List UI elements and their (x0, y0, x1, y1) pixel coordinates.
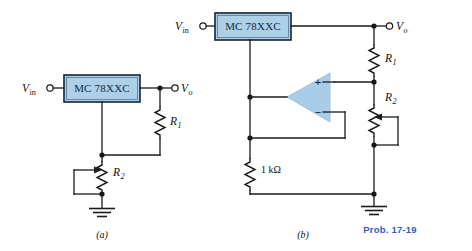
resistor-r1-b (369, 44, 379, 77)
output-terminal-a[interactable] (172, 85, 178, 91)
label-r1-b: R1 (384, 52, 397, 67)
label-r2-a: R2 (112, 166, 125, 181)
circuit-b: Vin MC 78XXC Vo R1 R2 (175, 13, 408, 241)
regulator-label-b: MC 78XXC (225, 20, 281, 32)
label-1k-b: 1 kΩ (261, 164, 281, 175)
opamp-minus-sign-b: − (315, 106, 321, 118)
label-vin-a: Vin (22, 82, 36, 97)
circuit-a: MC 78XXC Vin Vo R1 R2 (22, 75, 193, 241)
input-terminal-a[interactable] (47, 85, 53, 91)
label-vin-b: Vin (175, 20, 189, 35)
ground-symbol-a (89, 209, 115, 217)
circuit-figure: MC 78XXC Vin Vo R1 R2 (0, 0, 472, 251)
caption-b: (b) (297, 229, 309, 241)
resistor-r2-b (369, 104, 379, 137)
ground-symbol-b (361, 207, 387, 215)
label-r2-b: R2 (384, 91, 397, 106)
resistor-r1-a (155, 106, 165, 139)
label-vo-b: Vo (396, 20, 408, 35)
output-terminal-b[interactable] (386, 23, 392, 29)
opamp-plus-sign-b: + (315, 76, 321, 88)
opamp-symbol-b[interactable] (287, 73, 330, 122)
label-r1-a: R1 (169, 115, 182, 130)
caption-a: (a) (96, 229, 108, 241)
regulator-label-a: MC 78XXC (74, 82, 130, 94)
label-vo-a: Vo (181, 82, 193, 97)
input-terminal-b[interactable] (200, 23, 206, 29)
problem-tag: Prob. 17-19 (363, 224, 416, 235)
resistor-r2-a (97, 161, 107, 194)
resistor-1k-b (245, 158, 255, 191)
